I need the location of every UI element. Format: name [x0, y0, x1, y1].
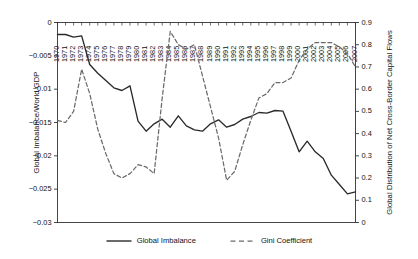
legend-label: Global Imbalance	[137, 236, 196, 245]
chart-figure: Global Imbalance/World GDP Global Distri…	[0, 0, 418, 259]
plot-canvas	[0, 0, 418, 259]
legend-label: Gini Coefficient	[261, 236, 312, 245]
legend-item: Global Imbalance	[106, 236, 196, 245]
chart-legend: Global ImbalanceGini Coefficient	[0, 236, 418, 245]
legend-swatch-solid	[106, 237, 132, 245]
legend-item: Gini Coefficient	[230, 236, 312, 245]
legend-swatch-dashed	[230, 237, 256, 245]
series-line-gini-coefficient	[58, 31, 356, 180]
series-line-global-imbalance	[58, 35, 356, 194]
